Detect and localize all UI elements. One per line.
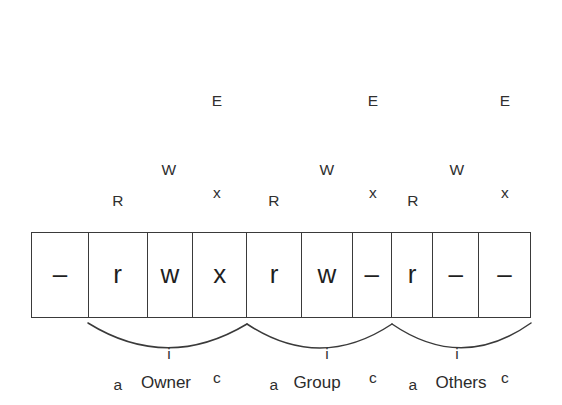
column-header-execute-others: E x e c u t e <box>492 24 518 405</box>
permission-cell-others-read[interactable]: r <box>392 233 434 317</box>
permission-cell-owner-read[interactable]: r <box>89 233 148 317</box>
permission-cell-group-execute[interactable]: – <box>353 233 392 317</box>
header-letter: a <box>261 370 287 401</box>
header-letter: x <box>204 178 230 209</box>
header-letter: W <box>444 155 470 186</box>
column-header-execute-owner: E x e c u t e <box>204 24 230 405</box>
permission-cell-group-read[interactable]: r <box>247 233 302 317</box>
column-header-execute-group: E x e c u t e <box>360 24 386 405</box>
permission-cell-value: – <box>364 261 378 287</box>
permission-cell-group-write[interactable]: w <box>302 233 353 317</box>
header-letter: E <box>360 86 386 117</box>
header-letter: i <box>156 339 182 370</box>
group-label-group: Group <box>293 373 340 393</box>
permission-cell-value: x <box>213 261 226 287</box>
group-label-others: Others <box>435 373 486 393</box>
permission-cell-owner-execute[interactable]: x <box>193 233 247 317</box>
header-letter: R <box>261 186 287 217</box>
permission-cell-owner-write[interactable]: w <box>148 233 194 317</box>
permission-cell-others-execute[interactable]: – <box>479 233 530 317</box>
permission-bits-figure: R e a d W r i t e E x e c u t e R e a d … <box>0 0 562 405</box>
header-letter: i <box>314 339 340 370</box>
header-letter: i <box>444 339 470 370</box>
header-letter: R <box>400 186 426 217</box>
header-letter: x <box>492 178 518 209</box>
permission-cell-value: – <box>449 261 463 287</box>
permission-cell-value: r <box>270 261 279 287</box>
permission-cell-file-type[interactable]: – <box>32 233 89 317</box>
permission-bits-row: – r w x r w – r – – <box>31 232 531 318</box>
permission-cell-value: – <box>53 261 67 287</box>
group-label-owner: Owner <box>141 373 191 393</box>
header-letter: E <box>204 86 230 117</box>
header-letter: c <box>492 363 518 394</box>
header-letter: a <box>400 370 426 401</box>
header-letter: a <box>105 370 131 401</box>
permission-cell-others-write[interactable]: – <box>433 233 479 317</box>
permission-cell-value: r <box>113 261 122 287</box>
header-letter: c <box>360 363 386 394</box>
header-letter: W <box>156 155 182 186</box>
permission-cell-value: w <box>161 261 180 287</box>
header-letter: W <box>314 155 340 186</box>
permission-cell-value: r <box>408 261 417 287</box>
header-letter: R <box>105 186 131 217</box>
header-letter: E <box>492 86 518 117</box>
permission-cell-value: w <box>317 261 336 287</box>
header-letter: x <box>360 178 386 209</box>
permission-cell-value: – <box>497 261 511 287</box>
header-letter: c <box>204 363 230 394</box>
